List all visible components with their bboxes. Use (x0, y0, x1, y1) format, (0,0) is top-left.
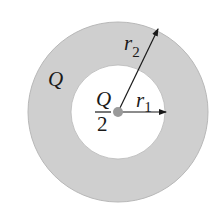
center-charge-denominator: 2 (97, 112, 108, 136)
charged-shell-diagram: Q r2 r1 Q 2 (0, 0, 210, 209)
shell-charge-label: Q (48, 67, 63, 91)
inner-radius-subscript: 1 (144, 99, 152, 115)
center-charge-numerator: Q (96, 87, 111, 111)
outer-radius-subscript: 2 (132, 44, 140, 60)
center-charge-dot (113, 107, 123, 117)
